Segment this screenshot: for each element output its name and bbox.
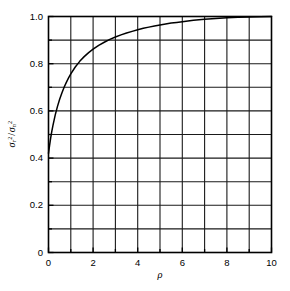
y-axis-denominator: σn2 (6, 121, 17, 133)
y-axis-numerator: σr2 (6, 136, 17, 147)
y-tick-label: 0.6 (18, 106, 43, 116)
y-axis-title: σr2/σn2 (6, 121, 17, 148)
chart-plot-area (0, 0, 290, 291)
y-tick-label: 0.8 (18, 59, 43, 69)
x-tick-label: 10 (266, 258, 277, 268)
y-tick-label: 0.4 (18, 153, 43, 163)
chart-figure: 0246810 00.20.40.60.81.0 ρ σr2/σn2 (0, 0, 290, 291)
x-tick-label: 8 (224, 258, 229, 268)
y-tick-label: 1.0 (18, 12, 43, 22)
x-tick-label: 4 (135, 258, 140, 268)
x-tick-label: 6 (180, 258, 185, 268)
x-tick-label: 0 (46, 258, 51, 268)
x-tick-label: 2 (90, 258, 95, 268)
chart-background (0, 0, 290, 291)
y-axis-divider: / (6, 132, 17, 136)
y-tick-label: 0.2 (18, 201, 43, 211)
x-axis-title: ρ (157, 269, 162, 280)
y-tick-label: 0 (18, 248, 43, 258)
